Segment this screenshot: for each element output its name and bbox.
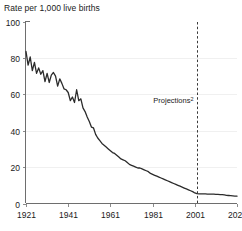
y-axis-ticks: 020406080100	[6, 18, 26, 210]
x-tick-label-1981: 1981	[144, 210, 163, 220]
y-tick-label-20: 20	[11, 163, 21, 173]
infant-mortality-rate-series	[26, 52, 237, 197]
x-tick-label-2001: 2001	[186, 210, 205, 220]
y-tick-label-0: 0	[15, 200, 20, 210]
y-tick-label-100: 100	[6, 18, 20, 28]
y-tick-label-80: 80	[11, 54, 21, 64]
projections-annotation: Projections2	[153, 96, 193, 106]
x-axis-ticks: 192119411961198120012021	[17, 204, 242, 220]
x-tick-label-1941: 1941	[59, 210, 78, 220]
gridlines	[26, 59, 237, 168]
x-tick-label-1961: 1961	[101, 210, 120, 220]
y-tick-label-40: 40	[11, 127, 21, 137]
x-tick-label-1921: 1921	[17, 210, 36, 220]
x-tick-label-2021: 2021	[228, 210, 242, 220]
y-tick-label-60: 60	[11, 90, 21, 100]
chart-container: Rate per 1,000 live births 020406080100 …	[0, 0, 242, 231]
line-chart-plot: 020406080100 192119411961198120012021 Pr…	[0, 0, 242, 231]
